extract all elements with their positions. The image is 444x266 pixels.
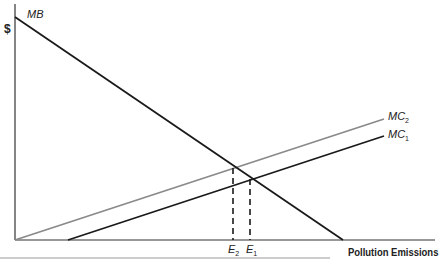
e2-label-sub: 2 [235,250,239,257]
mb-line [15,17,343,240]
chart-canvas [0,0,444,266]
mc2-label: MC2 [388,110,409,124]
e1-label: E1 [246,243,257,257]
mc1-label-base: MC [388,128,405,140]
mc1-line [68,136,384,240]
mb-label: MB [27,8,44,20]
e2-label: E2 [228,243,239,257]
e1-label-sub: 1 [253,250,257,257]
mc2-label-base: MC [388,110,405,122]
x-axis-label: Pollution Emissions [348,246,438,258]
y-axis-label: $ [4,22,11,36]
mc1-label: MC1 [388,128,409,142]
mc1-label-sub: 1 [405,135,409,142]
mc2-label-sub: 2 [405,117,409,124]
mc2-line [15,119,384,240]
